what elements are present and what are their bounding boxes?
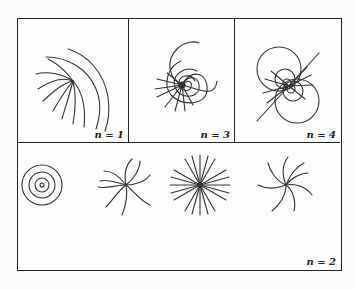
radial-star xyxy=(170,155,230,215)
panel-n4: n = 4 xyxy=(235,19,340,143)
panel-label: n = 2 xyxy=(306,256,336,267)
spiral-right xyxy=(258,157,312,211)
panel-label: n = 3 xyxy=(200,129,230,140)
figure-frame: n = 1 n = 3 xyxy=(17,18,342,271)
panel-label: n = 1 xyxy=(94,129,124,140)
panel-label: n = 4 xyxy=(306,129,336,140)
panel-n2: n = 2 xyxy=(18,143,340,269)
panel-n3: n = 3 xyxy=(129,19,235,143)
n1-field-lines xyxy=(18,19,129,143)
n4-field-lines xyxy=(235,19,340,143)
n3-field-lines xyxy=(129,19,235,143)
n2-field-lines xyxy=(18,143,340,269)
spiral-left xyxy=(98,159,150,215)
panel-n1: n = 1 xyxy=(18,19,129,143)
concentric-circles xyxy=(22,165,62,205)
